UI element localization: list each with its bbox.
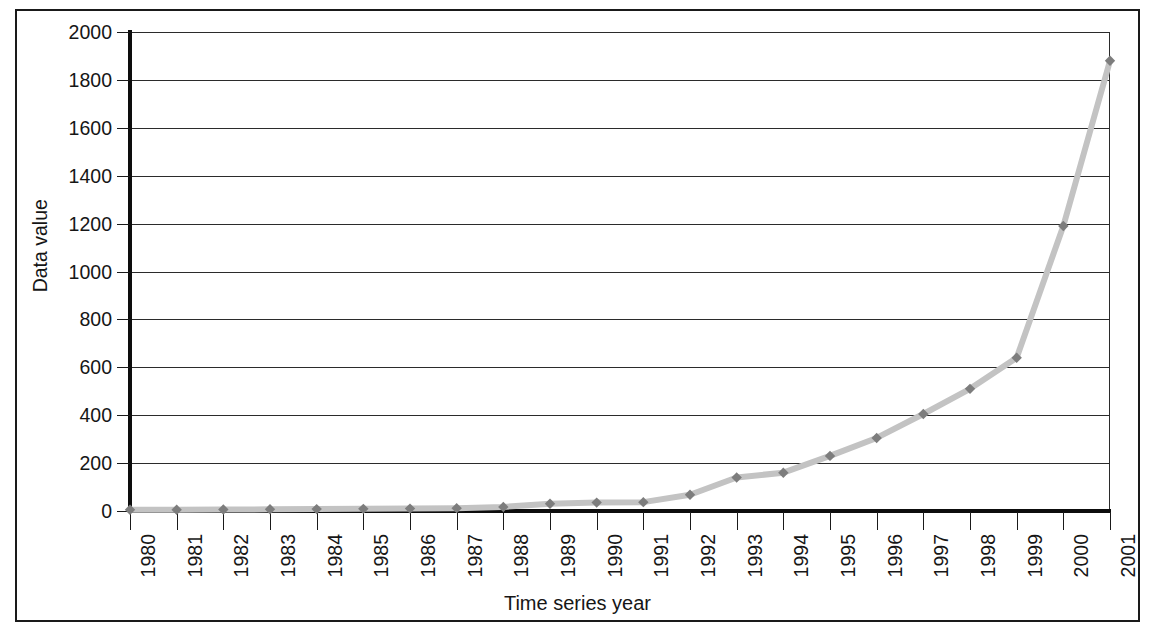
x-tick-label-1986: 1986 — [419, 534, 439, 577]
x-tick-1985 — [363, 512, 364, 530]
x-tick-1984 — [317, 512, 318, 530]
x-tick-1997 — [923, 512, 924, 530]
y-tick-label-200: 200 — [36, 454, 112, 474]
y-tick-600 — [117, 367, 130, 368]
x-tick-label-1991: 1991 — [652, 534, 672, 577]
x-tick-label-1989: 1989 — [559, 534, 579, 577]
x-axis-title: Time series year — [0, 592, 1155, 615]
x-tick-label-1996: 1996 — [886, 534, 906, 577]
x-tick-label-1985: 1985 — [372, 534, 392, 577]
x-tick-label-1995: 1995 — [839, 534, 859, 577]
x-tick-label-1987: 1987 — [466, 534, 486, 577]
gridline-800 — [130, 319, 1110, 320]
y-tick-400 — [117, 415, 130, 416]
x-tick-label-1998: 1998 — [979, 534, 999, 577]
x-tick-label-2001: 2001 — [1119, 534, 1139, 577]
y-tick-label-1600: 1600 — [36, 119, 112, 139]
y-tick-1200 — [117, 224, 130, 225]
chart-figure: 2000 1800 1600 1400 1200 1000 800 600 40… — [0, 0, 1155, 640]
x-tick-2001 — [1110, 512, 1111, 530]
y-tick-1400 — [117, 176, 130, 177]
x-tick-1989 — [550, 512, 551, 530]
y-tick-label-600: 600 — [36, 358, 112, 378]
gridline-1600 — [130, 128, 1110, 129]
y-tick-1800 — [117, 80, 130, 81]
x-tick-2000 — [1063, 512, 1064, 530]
y-tick-label-1800: 1800 — [36, 71, 112, 91]
gridline-1200 — [130, 224, 1110, 225]
y-tick-label-400: 400 — [36, 406, 112, 426]
y-tick-0 — [117, 511, 130, 512]
y-tick-label-800: 800 — [36, 310, 112, 330]
plot-right-edge — [1109, 32, 1110, 511]
x-tick-1981 — [177, 512, 178, 530]
x-tick-label-1981: 1981 — [186, 534, 206, 577]
y-axis-title: Data value — [31, 199, 51, 292]
y-tick-label-1400: 1400 — [36, 167, 112, 187]
x-tick-label-1997: 1997 — [932, 534, 952, 577]
x-tick-1998 — [970, 512, 971, 530]
x-axis-line — [130, 509, 1111, 513]
x-tick-1999 — [1017, 512, 1018, 530]
x-tick-label-1984: 1984 — [326, 534, 346, 577]
y-tick-2000 — [117, 32, 130, 33]
gridline-600 — [130, 367, 1110, 368]
x-tick-1987 — [457, 512, 458, 530]
x-tick-label-1992: 1992 — [699, 534, 719, 577]
x-tick-label-1983: 1983 — [279, 534, 299, 577]
gridline-400 — [130, 415, 1110, 416]
x-tick-1980 — [130, 512, 131, 530]
gridline-1000 — [130, 272, 1110, 273]
x-tick-1994 — [783, 512, 784, 530]
x-tick-1992 — [690, 512, 691, 530]
x-tick-label-2000: 2000 — [1072, 534, 1092, 577]
x-tick-label-1993: 1993 — [746, 534, 766, 577]
gridline-200 — [130, 463, 1110, 464]
gridline-1800 — [130, 80, 1110, 81]
y-tick-1000 — [117, 272, 130, 273]
gridline-2000 — [130, 32, 1110, 33]
x-tick-label-1980: 1980 — [139, 534, 159, 577]
plot-area — [130, 32, 1110, 511]
x-tick-1993 — [737, 512, 738, 530]
x-tick-1996 — [877, 512, 878, 530]
y-tick-800 — [117, 319, 130, 320]
y-tick-200 — [117, 463, 130, 464]
x-tick-1988 — [503, 512, 504, 530]
x-tick-label-1982: 1982 — [232, 534, 252, 577]
x-tick-label-1999: 1999 — [1026, 534, 1046, 577]
x-tick-1986 — [410, 512, 411, 530]
x-tick-1995 — [830, 512, 831, 530]
x-tick-label-1994: 1994 — [792, 534, 812, 577]
x-tick-1982 — [223, 512, 224, 530]
x-tick-1990 — [597, 512, 598, 530]
x-tick-label-1990: 1990 — [606, 534, 626, 577]
y-tick-1600 — [117, 128, 130, 129]
x-tick-1983 — [270, 512, 271, 530]
y-tick-label-0: 0 — [36, 502, 112, 522]
gridline-1400 — [130, 176, 1110, 177]
y-tick-label-2000: 2000 — [36, 23, 112, 43]
x-tick-1991 — [643, 512, 644, 530]
x-tick-label-1988: 1988 — [512, 534, 532, 577]
